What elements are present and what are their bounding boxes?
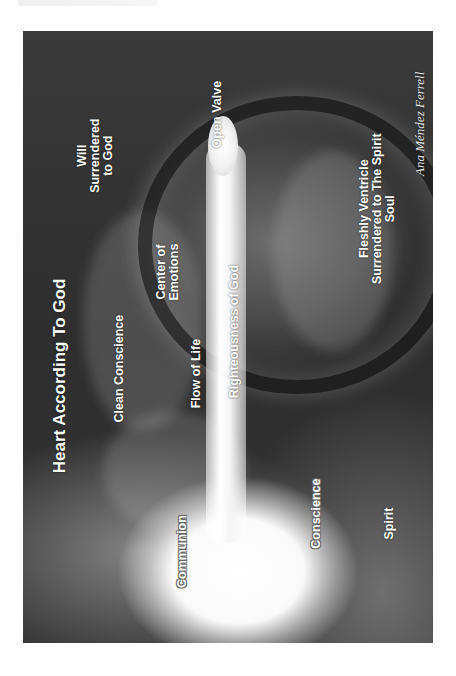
- label-communion: Communion: [176, 512, 189, 592]
- label-clean-conscience: Clean Conscience: [113, 304, 126, 434]
- label-open-valve: Open Valve: [211, 70, 224, 160]
- label-conscience: Conscience: [310, 474, 323, 554]
- artwork-title: Heart According To God: [51, 256, 69, 496]
- label-fleshly-ventricle: Fleshly Ventricle Surrendered to The Spi…: [358, 119, 397, 299]
- label-line: to God: [103, 111, 116, 201]
- label-righteousness-of-god: Righteousness of God: [228, 257, 241, 407]
- heart-artwork: Heart According To God Will Surrendered …: [23, 31, 433, 643]
- label-spirit: Spirit: [383, 494, 396, 554]
- label-center-of-emotions: Center of Emotions: [155, 232, 181, 312]
- artist-signature: Ana Méndez Ferrell: [413, 54, 427, 194]
- label-line: Emotions: [168, 232, 181, 312]
- cropped-header-text: [18, 0, 158, 6]
- label-will-surrendered: Will Surrendered to God: [76, 111, 115, 201]
- label-line: Soul: [385, 119, 398, 299]
- label-flow-of-life: Flow of Life: [190, 329, 203, 419]
